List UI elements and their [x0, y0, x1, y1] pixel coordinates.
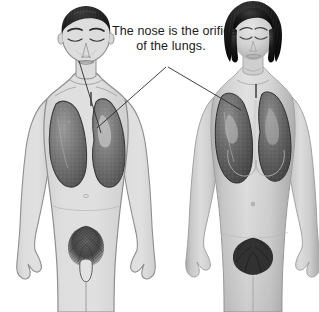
anatomy-figure: The nose is the orifice of the lungs. [0, 0, 320, 312]
male-nipple-left [67, 121, 70, 123]
female-head [224, 1, 282, 62]
male-nostril-right [88, 56, 91, 58]
figure-canvas [0, 0, 320, 312]
male-mouth [78, 61, 94, 65]
male-genitals [80, 259, 93, 282]
male-nostril-left [81, 56, 84, 58]
female-navel [251, 201, 255, 206]
